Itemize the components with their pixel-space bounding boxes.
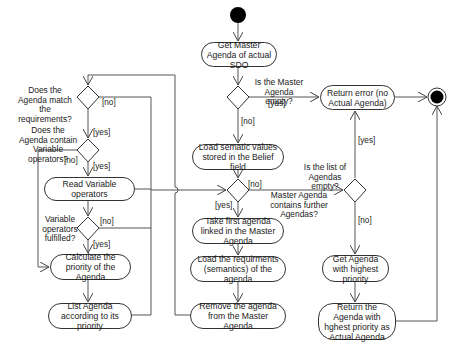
- guard-fulfilled-no: [no]: [100, 217, 114, 226]
- question-list-empty: Is the list of Agendas empty?: [295, 163, 355, 192]
- guard-master-empty-no: [no]: [241, 117, 255, 126]
- action-load-semantic-values: Load sematic values stored in the Belief…: [192, 144, 284, 170]
- guard-fulfilled-yes: [yes]: [93, 240, 110, 249]
- action-remove-agenda: Remove the agenda from the Master Agenda: [190, 303, 286, 329]
- decision-match-requirements: [77, 86, 99, 109]
- action-get-highest-priority: Get Agenda with highest priority: [322, 255, 389, 282]
- question-further-agendas: Master Agenda contains further Agendas?: [262, 191, 336, 220]
- decision-variable-fulfilled: [77, 217, 99, 240]
- decision-master-empty: [227, 86, 249, 109]
- action-read-variable-operators: Read Variable operators: [44, 177, 135, 201]
- question-match-requirements: Does the Agenda match the requirements?: [14, 86, 76, 124]
- guard-match-no: [no]: [102, 98, 116, 107]
- guard-further-yes: [yes]: [215, 201, 232, 210]
- action-return-error: Return error (no Actual Agenda): [320, 85, 395, 110]
- decision-contain-variable: [77, 139, 99, 162]
- guard-match-yes: [yes]: [93, 128, 110, 137]
- start-node: [230, 7, 246, 23]
- guard-further-no: [no]: [248, 180, 262, 189]
- guard-master-empty-yes: [yes]: [268, 99, 285, 108]
- action-return-highest: Return the Agenda with hghest priority a…: [318, 303, 396, 340]
- guard-list-empty-no: [no]: [358, 216, 372, 225]
- action-list-agenda: List Agenda according to its priority: [48, 303, 132, 329]
- action-get-master-agenda: Get Master Agenda of actual SDO: [201, 42, 277, 67]
- question-variable-fulfilled: Variable operators fulfilled?: [40, 215, 80, 244]
- guard-list-empty-yes: [yes]: [358, 136, 375, 145]
- action-calculate-priority: Calculate the priority of the Agenda: [50, 254, 131, 280]
- decision-further-agendas: [227, 179, 249, 202]
- action-take-first-agenda: Take first agenda linked in the Master A…: [192, 218, 284, 244]
- guard-contain-no: [no]: [64, 156, 78, 165]
- action-load-requirements: Load the requirments (semantics) of the …: [190, 256, 286, 282]
- guard-contain-yes: [yes]: [93, 162, 110, 171]
